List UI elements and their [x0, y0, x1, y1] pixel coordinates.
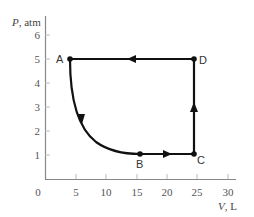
x-tick-label: 25: [192, 186, 204, 198]
point-c-label: C: [197, 154, 205, 166]
point-d-label: D: [199, 54, 207, 66]
path-a-to-b: [70, 59, 140, 154]
x-tick-label: 15: [132, 186, 144, 198]
x-tick-label: 5: [73, 186, 79, 198]
y-tick-label: 5: [35, 53, 41, 65]
point-b: [137, 151, 143, 157]
origin-label: 0: [35, 186, 41, 198]
arrow-c-to-d-icon: [190, 102, 198, 112]
arrow-b-to-c-icon: [163, 150, 172, 158]
y-tick-label: 2: [35, 125, 41, 137]
point-b-label: B: [136, 158, 143, 170]
x-tick-label: 20: [162, 186, 174, 198]
x-tick-label: 30: [223, 186, 235, 198]
y-axis-title: P, atm: [11, 16, 41, 28]
y-tick-label: 6: [35, 29, 41, 41]
pv-diagram: 1 2 3 4 5 6 0 5 10 15 20 25 30 P, atm V,…: [0, 0, 254, 217]
x-axis-title: V, L: [218, 200, 237, 212]
state-points: [67, 56, 197, 157]
point-d: [191, 56, 197, 62]
y-tick-label: 1: [35, 149, 41, 161]
x-tick-label: 10: [101, 186, 113, 198]
arrow-d-to-a-icon: [127, 55, 136, 63]
y-tick-label: 3: [35, 101, 41, 113]
x-ticks: [76, 174, 228, 179]
point-c: [191, 151, 197, 157]
cycle-paths: [70, 59, 194, 154]
point-a: [67, 56, 73, 62]
y-tick-label: 4: [35, 77, 41, 89]
point-a-label: A: [56, 53, 64, 65]
